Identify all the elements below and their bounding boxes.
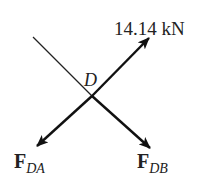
- force-da-arrow: [37, 96, 92, 146]
- force-da-subscript: DA: [26, 161, 45, 176]
- force-db-subscript: DB: [149, 161, 168, 176]
- force-db-symbol: F: [137, 150, 149, 172]
- force-da-symbol: F: [14, 150, 26, 172]
- force-db-label: FDB: [137, 151, 168, 176]
- point-label: D: [84, 71, 97, 89]
- force-da-label: FDA: [14, 151, 45, 176]
- force-db-arrow: [92, 96, 150, 148]
- applied-force-arrow: [92, 38, 149, 96]
- applied-force-label: 14.14 kN: [114, 19, 185, 38]
